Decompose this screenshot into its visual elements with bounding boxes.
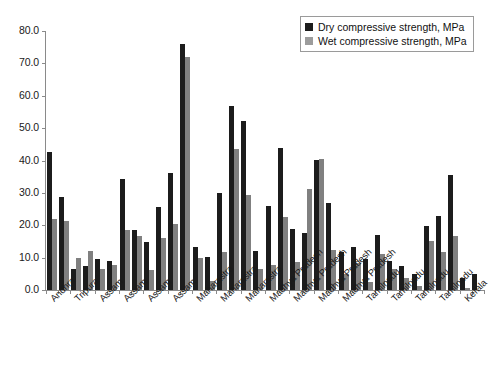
bar-group: [448, 31, 460, 290]
chart-legend: Dry compressive strength, MPaWet compres…: [300, 16, 474, 52]
y-axis-tick-label: 40.0: [19, 154, 39, 166]
bar-wet: [173, 224, 178, 290]
bar-group: [229, 31, 241, 290]
x-axis-tick: [338, 290, 339, 294]
x-axis-tick: [216, 290, 217, 294]
bar-wet: [234, 149, 239, 290]
x-axis-tick: [119, 290, 120, 294]
y-axis-tick: 30.0: [0, 193, 46, 194]
y-axis-tick: 60.0: [0, 96, 46, 97]
legend-swatch-dry: [305, 23, 313, 31]
bar-group: [266, 31, 278, 290]
legend-label: Dry compressive strength, MPa: [318, 21, 464, 33]
bar-group: [95, 31, 107, 290]
y-axis-tick-label: 50.0: [19, 121, 39, 133]
bar-group: [278, 31, 290, 290]
bar-group: [460, 31, 472, 290]
x-axis-tick: [192, 290, 193, 294]
y-axis-tick-label: 60.0: [19, 89, 39, 101]
x-axis-tick: [460, 290, 461, 294]
bar-group: [217, 31, 229, 290]
bar-group: [205, 31, 217, 290]
legend-item: Wet compressive strength, MPa: [305, 34, 467, 48]
bar-group: [180, 31, 192, 290]
y-axis-tick: 0.0: [0, 290, 46, 291]
bar-group: [399, 31, 411, 290]
bar-group: [168, 31, 180, 290]
x-axis-tick: [265, 290, 266, 294]
y-axis-tick-label: 20.0: [19, 218, 39, 230]
bar-group: [59, 31, 71, 290]
bar-group: [83, 31, 95, 290]
x-axis-tick: [484, 290, 485, 294]
bar-group: [132, 31, 144, 290]
x-axis-tick: [241, 290, 242, 294]
bar-group: [424, 31, 436, 290]
bar-group: [290, 31, 302, 290]
legend-swatch-wet: [305, 37, 313, 45]
bar-group: [472, 31, 484, 290]
y-axis-tick: 70.0: [0, 63, 46, 64]
y-axis-tick: 50.0: [0, 128, 46, 129]
y-axis-tick-label: 30.0: [19, 186, 39, 198]
bar-wet: [198, 258, 203, 290]
y-axis-tick: 80.0: [0, 31, 46, 32]
bar-wet: [52, 219, 57, 290]
bar-group: [193, 31, 205, 290]
y-axis-tick-label: 10.0: [19, 251, 39, 263]
legend-item: Dry compressive strength, MPa: [305, 20, 467, 34]
bar-group: [436, 31, 448, 290]
x-axis-tick: [362, 290, 363, 294]
y-axis-tick: 10.0: [0, 258, 46, 259]
bar-wet: [185, 57, 190, 290]
x-axis-tick: [387, 290, 388, 294]
x-axis-tick: [46, 290, 47, 294]
y-axis-tick: 40.0: [0, 161, 46, 162]
bar-group: [144, 31, 156, 290]
y-axis-tick-label: 70.0: [19, 56, 39, 68]
bar-wet: [76, 258, 81, 290]
x-axis-tick: [143, 290, 144, 294]
x-axis-tick: [70, 290, 71, 294]
bar-group: [47, 31, 59, 290]
x-axis-tick: [95, 290, 96, 294]
bar-group: [412, 31, 424, 290]
bar-group: [241, 31, 253, 290]
bar-group: [71, 31, 83, 290]
y-axis-tick: 20.0: [0, 225, 46, 226]
bar-group: [253, 31, 265, 290]
bar-group: [156, 31, 168, 290]
bar-group: [107, 31, 119, 290]
x-axis-tick: [314, 290, 315, 294]
x-axis-tick: [435, 290, 436, 294]
y-axis-tick-label: 80.0: [19, 24, 39, 36]
y-axis-tick-label: 0.0: [25, 283, 39, 295]
plot-area: [46, 31, 484, 290]
x-axis-tick: [168, 290, 169, 294]
x-axis-tick: [289, 290, 290, 294]
bar-group: [120, 31, 132, 290]
bar-wet: [125, 230, 130, 290]
legend-label: Wet compressive strength, MPa: [318, 35, 467, 47]
x-axis-tick: [411, 290, 412, 294]
chart-screenshot: 0.010.020.030.040.050.060.070.080.0 Andh…: [0, 0, 491, 373]
